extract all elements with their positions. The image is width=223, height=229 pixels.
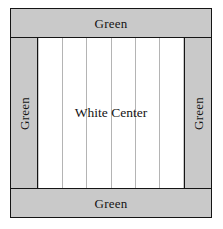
center-strip bbox=[87, 38, 111, 188]
panel-outer-frame: Green Green White Center Green Green bbox=[10, 8, 212, 218]
center-strip bbox=[160, 38, 183, 188]
center-strip bbox=[136, 38, 160, 188]
center-strip bbox=[63, 38, 87, 188]
center-strip bbox=[39, 38, 63, 188]
center-strip bbox=[112, 38, 136, 188]
border-band-top: Green bbox=[11, 9, 211, 38]
border-band-bottom: Green bbox=[11, 188, 211, 217]
border-band-left: Green bbox=[11, 38, 38, 188]
border-band-right: Green bbox=[184, 38, 211, 188]
panel-diagram: Green Green White Center Green Green bbox=[0, 0, 223, 229]
border-label-top: Green bbox=[95, 17, 128, 30]
border-label-left: Green bbox=[18, 97, 31, 130]
white-center-area: White Center bbox=[39, 38, 183, 188]
border-label-bottom: Green bbox=[95, 197, 128, 210]
border-label-right: Green bbox=[192, 97, 205, 130]
